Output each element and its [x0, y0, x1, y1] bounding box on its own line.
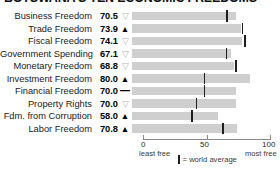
- score-value: 58.0: [92, 111, 118, 121]
- score-value: 68.8: [92, 61, 118, 71]
- trend-down-icon: ▽: [118, 36, 132, 46]
- axis-caption-least-free: least free: [139, 149, 170, 158]
- bar-track: [132, 85, 280, 98]
- table-row: Property Rights70.0▽: [0, 98, 280, 111]
- trend-flat-icon: —: [118, 86, 132, 96]
- axis-tick-50: 50: [200, 140, 209, 149]
- value-bar: [132, 24, 241, 33]
- bar-track: [132, 73, 280, 86]
- value-bar: [132, 124, 237, 133]
- category-label: Fdm. from Corruption: [0, 111, 92, 121]
- category-label: Monetary Freedom: [0, 61, 92, 71]
- world-average-marker: [204, 73, 206, 84]
- category-label: Government Spending: [0, 49, 92, 59]
- world-average-marker: [226, 10, 228, 21]
- world-average-tick-icon: [178, 155, 180, 164]
- table-row: Fiscal Freedom74.1▽: [0, 35, 280, 48]
- category-label: Property Rights: [0, 99, 92, 109]
- category-label: Investment Freedom: [0, 74, 92, 84]
- economic-freedoms-chart: BOTSWANA'S TEN ECONOMIC FREEDOMS Busines…: [0, 0, 280, 172]
- table-row: Investment Freedom80.0▲: [0, 73, 280, 86]
- value-bar: [132, 12, 236, 21]
- trend-down-icon: ▽: [118, 49, 132, 59]
- table-row: Government Spending67.1▽: [0, 48, 280, 61]
- world-average-marker: [222, 123, 224, 134]
- bar-track: [132, 35, 280, 48]
- world-average-marker: [196, 98, 198, 109]
- category-label: Financial Freedom: [0, 86, 92, 96]
- value-bar: [132, 74, 250, 83]
- score-value: 73.9: [92, 24, 118, 34]
- table-row: Financial Freedom70.0—: [0, 85, 280, 98]
- score-value: 70.8: [92, 124, 118, 134]
- world-average-marker: [244, 35, 246, 46]
- world-average-marker: [242, 23, 244, 34]
- value-bar: [132, 87, 236, 96]
- trend-up-icon: ▲: [118, 111, 132, 121]
- axis-tick-0: 0: [141, 140, 145, 149]
- table-row: Business Freedom70.5▽: [0, 10, 280, 23]
- trend-up-icon: ▲: [118, 124, 132, 134]
- axis-tick-100: 100: [262, 140, 275, 149]
- value-bar: [132, 49, 231, 58]
- value-bar: [132, 62, 234, 71]
- category-label: Trade Freedom: [0, 24, 92, 34]
- category-label: Business Freedom: [0, 11, 92, 21]
- trend-down-icon: ▽: [118, 99, 132, 109]
- table-row: Fdm. from Corruption58.0▲: [0, 110, 280, 123]
- score-value: 80.0: [92, 74, 118, 84]
- world-average-marker: [204, 85, 206, 96]
- trend-up-icon: ▲: [118, 24, 132, 34]
- score-value: 70.0: [92, 99, 118, 109]
- bar-track: [132, 10, 280, 23]
- score-value: 70.0: [92, 86, 118, 96]
- value-bar: [132, 99, 236, 108]
- axis-mid-tick: [207, 135, 208, 139]
- bar-track: [132, 60, 280, 73]
- score-value: 70.5: [92, 11, 118, 21]
- world-average-marker: [226, 48, 228, 59]
- score-value: 74.1: [92, 36, 118, 46]
- trend-up-icon: ▲: [118, 74, 132, 84]
- world-average-marker: [235, 60, 237, 71]
- value-bar: [132, 112, 218, 121]
- bar-track: [132, 48, 280, 61]
- bar-track: [132, 98, 280, 111]
- category-label: Labor Freedom: [0, 124, 92, 134]
- value-bar: [132, 37, 242, 46]
- bar-track: [132, 23, 280, 36]
- legend-label: = world average: [183, 155, 237, 164]
- category-label: Fiscal Freedom: [0, 36, 92, 46]
- world-average-marker: [191, 110, 193, 121]
- score-value: 67.1: [92, 49, 118, 59]
- table-row: Labor Freedom70.8▲: [0, 123, 280, 136]
- bar-track: [132, 123, 280, 136]
- trend-down-icon: ▽: [118, 61, 132, 71]
- table-row: Trade Freedom73.9▲: [0, 23, 280, 36]
- bar-track: [132, 110, 280, 123]
- axis-caption-most-free: most free: [245, 149, 277, 158]
- trend-down-icon: ▽: [118, 11, 132, 21]
- page-title: BOTSWANA'S TEN ECONOMIC FREEDOMS: [4, 0, 276, 5]
- legend: = world average: [178, 155, 237, 164]
- bar-rows: Business Freedom70.5▽Trade Freedom73.9▲F…: [0, 10, 280, 135]
- axis-tick-labels: 0 50 100 least free most free: [0, 140, 280, 162]
- table-row: Monetary Freedom68.8▽: [0, 60, 280, 73]
